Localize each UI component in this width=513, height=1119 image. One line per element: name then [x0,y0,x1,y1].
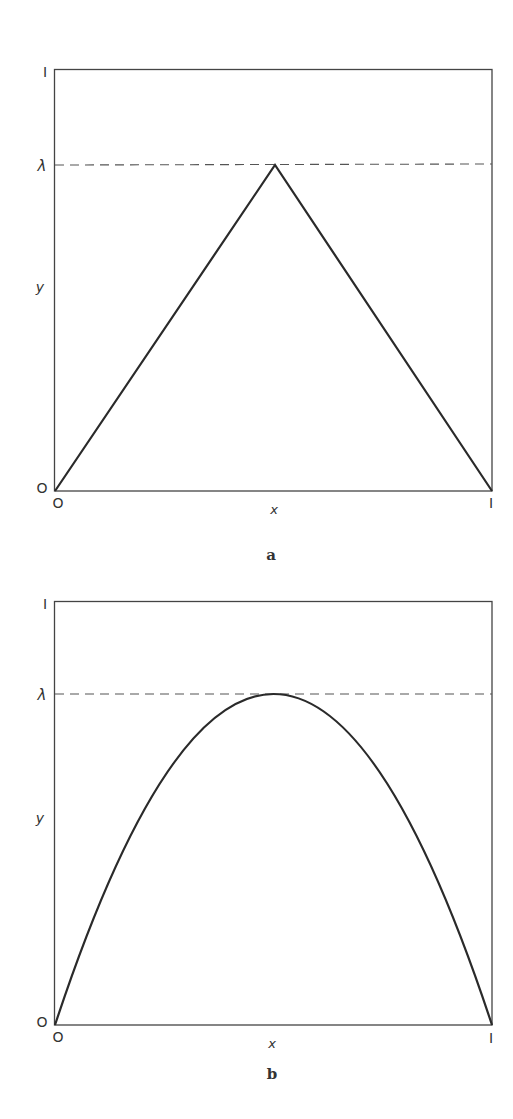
panel-b-y-lambda-label: λ [37,686,47,704]
panel-a-lambda-dashed-line [55,164,492,165]
panel-b-y-axis-label: y [35,810,45,826]
panel-a-x-origin-label: O [52,495,63,511]
panel-a-y-lambda-label: λ [37,157,47,175]
panel-a-x-end-label: I [489,495,493,511]
figure: I λ y O O I x a I λ y O O I x b [0,0,513,1119]
panel-b-caption: b [267,1065,278,1083]
panel-a-y-top-label: I [43,64,47,80]
panel-a-tent-curve [55,165,492,491]
panel-b-y-top-label: I [43,596,47,612]
panel-a-caption: a [266,546,276,564]
panel-a-frame [55,70,493,492]
panel-b-frame [55,602,493,1026]
panel-a-y-origin-label: O [36,480,47,496]
panel-b-parabola-curve [55,694,492,1025]
panel-b-x-axis-label: x [267,1036,276,1051]
panel-a-x-axis-label: x [269,502,278,517]
panel-a: I λ y O O I x a [35,64,493,564]
panel-b-x-origin-label: O [52,1029,63,1045]
panel-b-y-origin-label: O [36,1014,47,1030]
panel-b: I λ y O O I x b [35,596,493,1083]
panel-a-y-axis-label: y [35,279,45,295]
panel-b-x-end-label: I [489,1030,493,1046]
